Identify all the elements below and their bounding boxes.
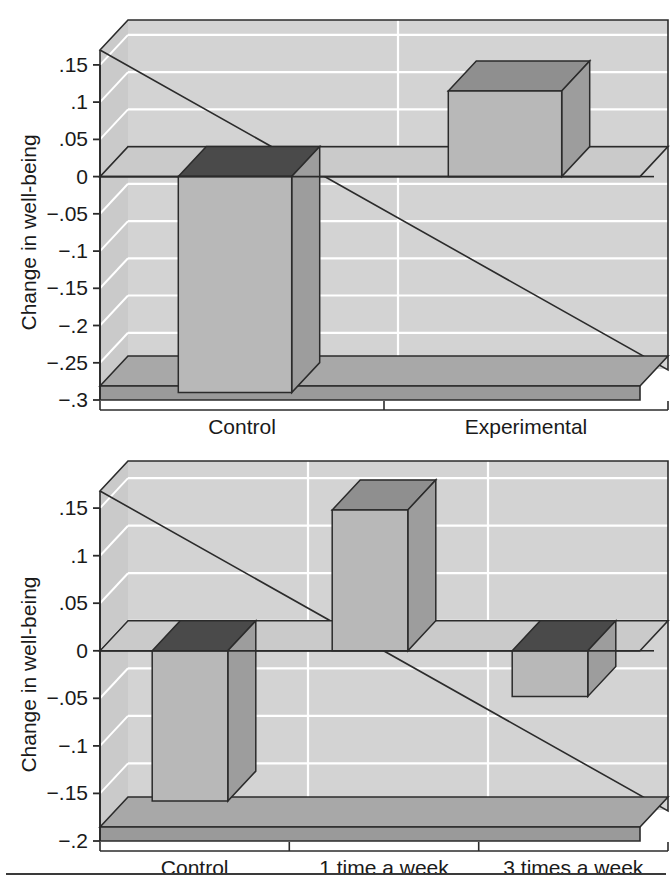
svg-text:0: 0: [76, 165, 88, 188]
bar-front-face: [152, 651, 228, 801]
bar-1: [152, 621, 256, 801]
figure-bottom-rule: [6, 873, 666, 875]
bar-chart-top: .15.1.050−.05−.1−.15−.2−.25−.3ControlExp…: [0, 0, 672, 441]
bar-side-face: [292, 147, 320, 393]
bar-1: [178, 147, 319, 393]
bar-front-face: [448, 91, 561, 177]
svg-text:.05: .05: [59, 591, 88, 614]
svg-text:.1: .1: [70, 544, 88, 567]
bar-side-face: [408, 480, 436, 651]
bar-front-face: [332, 510, 408, 651]
svg-text:Experimental: Experimental: [465, 415, 588, 438]
bar-2: [332, 480, 436, 651]
bar-2: [448, 61, 589, 177]
chart-panel-bottom: .15.1.050−.05−.1−.15−.2Control1 time a w…: [0, 441, 672, 882]
svg-text:−.1: −.1: [58, 734, 88, 757]
svg-text:−.15: −.15: [47, 781, 88, 804]
chart-panel-top: .15.1.050−.05−.1−.15−.2−.25−.3ControlExp…: [0, 0, 672, 441]
svg-text:.15: .15: [59, 496, 88, 519]
svg-text:Control: Control: [208, 415, 276, 438]
svg-text:−.15: −.15: [47, 276, 88, 299]
svg-text:−.2: −.2: [58, 314, 88, 337]
svg-text:−.3: −.3: [58, 388, 88, 411]
bar-front-face: [512, 651, 588, 697]
plot-floor-front: [100, 827, 640, 841]
svg-text:−.05: −.05: [47, 686, 88, 709]
svg-text:.1: .1: [70, 90, 88, 113]
svg-text:.15: .15: [59, 53, 88, 76]
svg-text:−.2: −.2: [58, 829, 88, 852]
svg-text:−.25: −.25: [47, 351, 88, 374]
svg-text:Control: Control: [161, 856, 229, 879]
svg-text:Change in well-being: Change in well-being: [17, 576, 40, 772]
svg-text:−.05: −.05: [47, 202, 88, 225]
bar-chart-bottom: .15.1.050−.05−.1−.15−.2Control1 time a w…: [0, 441, 672, 882]
two-panel-bar-figure: .15.1.050−.05−.1−.15−.2−.25−.3ControlExp…: [0, 0, 672, 882]
svg-text:.05: .05: [59, 127, 88, 150]
svg-text:0: 0: [76, 639, 88, 662]
bar-front-face: [178, 177, 291, 393]
bar-side-face: [228, 621, 256, 801]
svg-text:1 time a week: 1 time a week: [319, 856, 449, 879]
svg-text:−.1: −.1: [58, 239, 88, 262]
svg-text:Change in well-being: Change in well-being: [17, 134, 40, 330]
svg-text:3 times a week: 3 times a week: [503, 856, 644, 879]
